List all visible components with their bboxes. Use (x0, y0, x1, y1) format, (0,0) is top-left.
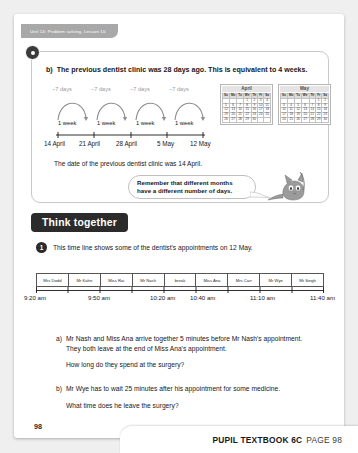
calendar-week-row: 26 27 28 29 30 (223, 117, 271, 122)
worked-example-panel: b)The previous dentist clinic was 28 day… (31, 51, 329, 203)
calendar-grid: Su Mo Tu We Th Fr Sa 1 2 3 (222, 93, 271, 123)
unit-tab: Unit 14: Problem solving, Lesson 10 (21, 24, 118, 38)
item-number-badge: 1 (36, 242, 47, 253)
question-b-text: The previous dentist clinic was 28 days … (57, 66, 308, 74)
calendar-may: May Su Mo Tu We Th Fr Sa (278, 84, 331, 125)
timeline-slot: Miss Ana (196, 274, 228, 286)
tick-label: 12 May (190, 140, 211, 147)
calendar-day: 27 (301, 117, 309, 122)
calendar-day: 29 (243, 117, 251, 122)
question-a-followup: How long do they spend at the surgery? (66, 360, 306, 370)
jump-arcs-icon (50, 93, 210, 123)
jump-label: −7 days (169, 86, 189, 92)
timeline-slot: break (165, 274, 197, 286)
timeline-time-labels: 9:20 am 9:50 am 10:20 am 10:40 am 11:10 … (24, 294, 336, 304)
calendar-day: 30 (251, 117, 258, 122)
calendar-week-row: 24 25 26 27 28 29 30 (281, 117, 329, 122)
timeline-time: 10:40 am (190, 294, 215, 301)
question-a-body: Mr Nash and Miss Ana arrive together 5 m… (66, 334, 306, 353)
jump-label: −7 days (91, 86, 111, 92)
timeline-slot: Mrs Dodd (37, 274, 69, 286)
calendars: April Su Mo Tu We Th Fr Sa (220, 84, 331, 125)
textbook-page: Unit 14: Problem solving, Lesson 10 b)Th… (14, 14, 344, 438)
calendar-title: May (280, 86, 329, 92)
jump-label: −7 days (52, 86, 72, 92)
number-line-axis (50, 131, 210, 139)
tick-label: 28 April (116, 140, 137, 147)
footer-page-label: PAGE 98 (306, 435, 342, 445)
timeline-slot: Mr Singh (292, 274, 323, 286)
question-b2-label: b) (56, 384, 62, 394)
interval-labels: 1 week 1 week 1 week 1 week (50, 120, 210, 130)
question-b-line: b)The previous dentist clinic was 28 day… (46, 66, 318, 75)
timeline-slot: Mr Wye (260, 274, 292, 286)
timeline-axis (36, 287, 324, 294)
bullet-dot-icon (25, 45, 40, 60)
unit-tab-label: Unit 14: Problem solving, Lesson 10 (30, 29, 106, 34)
question-a: a) Mr Nash and Miss Ana arrive together … (56, 334, 306, 370)
speech-bubble-line-1: Remember that different months (137, 179, 233, 186)
answer-sentence: The date of the previous dentist clinic … (54, 160, 202, 167)
calendar-day: 24 (281, 117, 288, 122)
speech-bubble-text: Remember that different months have a di… (137, 179, 233, 196)
calendar-day: 28 (309, 117, 316, 122)
timeline-time: 10:20 am (150, 294, 175, 301)
interval-label: 1 week (58, 120, 76, 126)
calendar-day: 30 (322, 117, 329, 122)
cat-character (262, 170, 306, 204)
calendar-day (264, 117, 271, 122)
timeline-slot-row: Mrs Dodd Mr Kahn Miss Rai Mr Nash break … (36, 273, 324, 287)
timeline-slot: Mr Nash (133, 274, 165, 286)
tick-label: 14 April (44, 140, 65, 147)
timeline-time: 11:40 am (310, 294, 335, 301)
footer-strip: PUPIL TEXTBOOK 6C PAGE 98 (120, 426, 358, 453)
speech-bubble: Remember that different months have a di… (128, 175, 256, 199)
tick-labels: 14 April 21 April 28 April 5 May 12 May (44, 140, 220, 150)
timeline-intro-text: This time line shows some of the dentist… (53, 244, 253, 251)
footer-book-label: PUPIL TEXTBOOK 6C (212, 435, 302, 445)
question-b-label: b) (46, 66, 53, 74)
calendar-grid: Su Mo Tu We Th Fr Sa 1 (280, 93, 329, 123)
think-together-banner: Think together (31, 213, 128, 232)
timeline-time: 11:10 am (250, 294, 275, 301)
timeline-slot: Mr Kahn (69, 274, 101, 286)
calendar-day: 25 (287, 117, 295, 122)
question-b2: b) Mr Wye has to wait 25 minutes after h… (56, 384, 306, 410)
timeline-time: 9:50 am (88, 294, 110, 301)
jump-label: −7 days (130, 86, 150, 92)
tick-label: 5 May (157, 140, 174, 147)
think-together-label: Think together (42, 217, 117, 228)
calendar-title: April (222, 86, 271, 92)
calendar-day: 27 (229, 117, 237, 122)
question-a-label: a) (56, 334, 62, 344)
interval-label: 1 week (136, 120, 154, 126)
number-line-diagram: −7 days −7 days −7 days −7 days (50, 86, 210, 154)
page-number: 98 (34, 422, 42, 431)
timeline-time: 9:20 am (24, 294, 46, 301)
timeline-slot: Miss Rai (101, 274, 133, 286)
question-b2-body: Mr Wye has to wait 25 minutes after his … (66, 384, 306, 394)
tick-label: 21 April (79, 140, 100, 147)
timeline-slot: Mrs Carr (228, 274, 260, 286)
calendar-day: 26 (223, 117, 230, 122)
interval-label: 1 week (175, 120, 193, 126)
interval-label: 1 week (97, 120, 115, 126)
appointments-timeline: Mrs Dodd Mr Kahn Miss Rai Mr Nash break … (36, 273, 324, 317)
calendar-april: April Su Mo Tu We Th Fr Sa (220, 84, 273, 125)
question-b2-followup: What time does he leave the surgery? (66, 401, 306, 411)
speech-bubble-line-2: have a different number of days. (137, 187, 232, 194)
